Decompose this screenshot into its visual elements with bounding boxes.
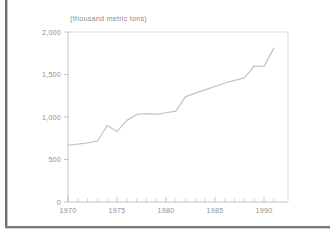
- line-chart: (thousand metric tons) 2,000 1,500 1,000…: [0, 0, 330, 233]
- x-tick-label: 1970: [60, 206, 77, 215]
- y-axis-labels: 2,000 1,500 1,000 500 0: [42, 28, 61, 207]
- y-tick-label: 1,500: [42, 70, 61, 79]
- y-tick-label: 500: [48, 155, 61, 164]
- x-tick-label: 1980: [158, 206, 175, 215]
- y-tick-label: 2,000: [42, 28, 61, 37]
- page-canvas: (thousand metric tons) 2,000 1,500 1,000…: [0, 0, 330, 233]
- x-axis-labels: 1970 1975 1980 1985 1990: [60, 206, 273, 215]
- data-series-line: [68, 48, 274, 145]
- chart-plot-svg: 2,000 1,500 1,000 500 0: [0, 0, 330, 233]
- y-axis-ticks: [64, 32, 68, 202]
- x-tick-label: 1975: [109, 206, 126, 215]
- y-tick-label: 1,000: [42, 113, 61, 122]
- x-axis-minor-ticks: [78, 199, 274, 203]
- x-tick-label: 1985: [207, 206, 224, 215]
- x-tick-label: 1990: [256, 206, 273, 215]
